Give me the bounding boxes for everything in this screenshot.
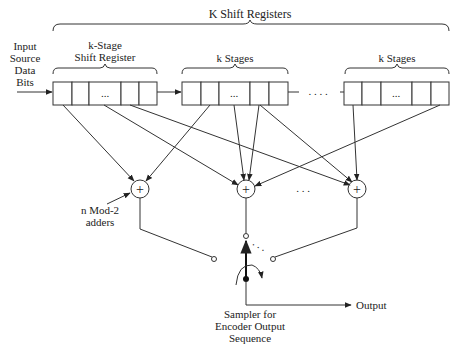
sampler-label: Sampler for Encoder Output Sequence — [215, 308, 285, 344]
mod2-adder-2: + — [237, 180, 255, 198]
shift-register-2: k Stages ... — [182, 52, 288, 105]
convolutional-encoder-diagram: K Shift Registers Input Source Data Bits… — [0, 0, 465, 355]
output-label: Output — [356, 299, 387, 311]
adders-ellipsis: . . . — [296, 182, 310, 194]
mod2-adder-3: + — [348, 180, 366, 198]
register-2-label: k Stages — [217, 52, 254, 64]
svg-text:Data: Data — [15, 64, 36, 76]
svg-text:Bits: Bits — [16, 76, 34, 88]
input-label: Input Source Data Bits — [10, 40, 41, 88]
mod2-adder-1: + — [131, 180, 149, 198]
svg-text:...: ... — [230, 87, 239, 99]
adder-annotation: n Mod-2 adders — [81, 193, 130, 228]
svg-text:Input: Input — [13, 40, 36, 52]
output-arrow — [246, 282, 351, 305]
svg-text:Sampler for: Sampler for — [224, 308, 277, 320]
svg-text:...: ... — [101, 87, 110, 99]
svg-text:Encoder Output: Encoder Output — [215, 320, 285, 332]
svg-text:Source: Source — [10, 52, 41, 64]
shift-register-3: k Stages ... — [344, 52, 449, 105]
k-shift-registers-label: K Shift Registers — [209, 7, 292, 21]
register-chain-ellipsis: . . . . — [308, 85, 328, 97]
svg-text:Sequence: Sequence — [229, 332, 271, 344]
k-shift-registers-brace: K Shift Registers — [53, 7, 449, 31]
svg-text:+: + — [136, 182, 144, 197]
switch-ellipsis: . . . — [251, 236, 269, 253]
adder-output-lines — [140, 198, 357, 257]
svg-text:...: ... — [392, 87, 401, 99]
shift-register-1: k-Stage Shift Register ... — [53, 39, 157, 105]
svg-text:adders: adders — [86, 216, 115, 228]
sampler-switch: . . . — [212, 234, 276, 286]
tap-connections — [63, 105, 440, 186]
register-1-label-line2: Shift Register — [75, 51, 136, 63]
svg-text:+: + — [242, 182, 250, 197]
svg-text:n Mod-2: n Mod-2 — [81, 204, 119, 216]
svg-text:+: + — [353, 182, 361, 197]
register-1-label-line1: k-Stage — [88, 39, 122, 51]
register-3-label: k Stages — [379, 52, 416, 64]
